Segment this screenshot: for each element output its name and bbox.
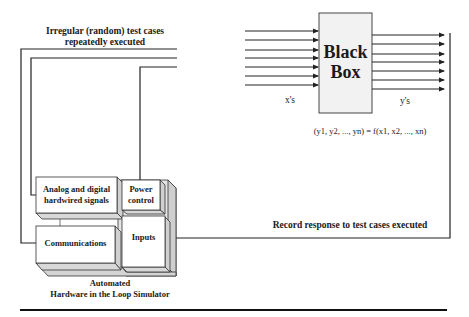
simulator-caption-line-2: Hardware in the Loop Simulator: [30, 289, 190, 300]
simulator-caption: Automated Hardware in the Loop Simulator: [30, 278, 190, 300]
inputs-label: x's: [280, 95, 300, 106]
equation: (y1, y2, ..., yn) = f(x1, x2, ..., xn): [280, 126, 460, 137]
top-label-line-1: Irregular (random) test cases: [40, 26, 170, 37]
line-to-analog: [31, 58, 177, 195]
top-label-line-2: repeatedly executed: [40, 37, 170, 48]
inputs-block-label: Inputs: [122, 232, 165, 243]
black-box-title-line-1: Black: [319, 42, 372, 62]
input-arrows: [245, 31, 318, 85]
record-label: Record response to test cases executed: [260, 220, 440, 231]
analog-block-label: Analog and digital hardwired signals: [36, 184, 117, 206]
top-label: Irregular (random) test cases repeatedly…: [40, 26, 170, 48]
power-label-line-2: control: [122, 195, 160, 206]
line-to-power: [140, 67, 177, 182]
black-box-title: Black Box: [319, 42, 372, 82]
communications-block-label: Communications: [36, 238, 115, 249]
simulator-caption-line-1: Automated: [30, 278, 190, 289]
black-box-title-line-2: Box: [319, 62, 372, 82]
power-label-line-1: Power: [122, 184, 160, 195]
power-block-label: Power control: [122, 184, 160, 206]
analog-label-line-1: Analog and digital: [36, 184, 117, 195]
output-arrows: [372, 35, 444, 89]
outputs-label: y's: [395, 96, 415, 107]
analog-label-line-2: hardwired signals: [36, 195, 117, 206]
